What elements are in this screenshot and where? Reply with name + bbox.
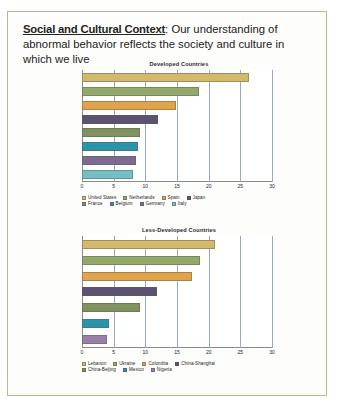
legend-label: China-Beijing — [88, 367, 116, 372]
x-tick-label: 30 — [269, 183, 275, 189]
legend-label: Japan — [193, 195, 206, 200]
bar-row — [82, 287, 272, 296]
legend-item[interactable]: Germany — [140, 201, 165, 206]
x-tick-label: 5 — [112, 183, 115, 189]
header-lead-term: Social and Cultural Context — [23, 23, 165, 35]
legend-swatch-icon — [151, 368, 155, 372]
x-tick-label: 5 — [112, 349, 115, 355]
chart-less-developed-countries: Less-Developed Countries 051015202530 Le… — [70, 226, 288, 373]
legend-row: FranceBelgiumGermanyItaly — [82, 201, 278, 206]
legend-item[interactable]: Mexico — [123, 367, 144, 372]
x-tick-label: 0 — [81, 183, 84, 189]
bar-row — [82, 142, 272, 151]
legend-swatch-icon — [187, 196, 191, 200]
bar-row — [82, 156, 272, 165]
bar-row — [82, 335, 272, 344]
bar — [82, 87, 199, 96]
legend-row: LebanonUkraineColombiaChina-Shanghai — [82, 361, 278, 366]
legend-label: France — [88, 201, 103, 206]
legend-item[interactable]: Italy — [172, 201, 187, 206]
legend-swatch-icon — [82, 362, 86, 366]
legend-item[interactable]: France — [82, 201, 103, 206]
bar — [82, 272, 192, 281]
legend-item[interactable]: United States — [82, 195, 116, 200]
chart-title: Less-Developed Countries — [70, 226, 288, 234]
plot-wrap — [82, 236, 272, 348]
chart-developed-countries: Developed Countries 051015202530 United … — [70, 60, 288, 207]
legend-row: United StatesNetherlandsSpainJapan — [82, 195, 278, 200]
legend-item[interactable]: Nigeria — [151, 367, 172, 372]
legend-label: Germany — [146, 201, 165, 206]
bar-row — [82, 101, 272, 110]
x-axis: 051015202530 — [82, 182, 272, 192]
legend-item[interactable]: Lebanon — [82, 361, 106, 366]
bar-row — [82, 73, 272, 82]
legend-swatch-icon — [140, 202, 144, 206]
x-tick-label: 25 — [238, 349, 244, 355]
bar — [82, 142, 138, 151]
legend-swatch-icon — [175, 362, 179, 366]
legend-swatch-icon — [123, 196, 127, 200]
bar-series — [82, 70, 272, 182]
legend-label: Ukraine — [119, 361, 135, 366]
bar — [82, 319, 109, 328]
legend-swatch-icon — [142, 362, 146, 366]
legend-swatch-icon — [172, 202, 176, 206]
x-tick-label: 15 — [174, 183, 180, 189]
x-tick-label: 10 — [143, 183, 149, 189]
legend-swatch-icon — [82, 196, 86, 200]
legend-label: Lebanon — [88, 361, 106, 366]
legend-item[interactable]: Colombia — [142, 361, 168, 366]
chart-legend: LebanonUkraineColombiaChina-ShanghaiChin… — [70, 361, 288, 372]
legend-label: Italy — [178, 201, 187, 206]
x-tick-label: 20 — [206, 349, 212, 355]
x-tick-label: 30 — [269, 349, 275, 355]
gridline — [272, 236, 273, 348]
plot-wrap — [82, 70, 272, 182]
bar — [82, 240, 215, 249]
x-tick-label: 25 — [238, 183, 244, 189]
legend-label: Mexico — [129, 367, 144, 372]
legend-row: China-BeijingMexicoNigeria — [82, 367, 278, 372]
bar-row — [82, 303, 272, 312]
x-tick-label: 0 — [81, 349, 84, 355]
legend-swatch-icon — [162, 196, 166, 200]
legend-item[interactable]: Netherlands — [123, 195, 154, 200]
bar — [82, 170, 133, 179]
gridline — [272, 70, 273, 182]
bar — [82, 101, 176, 110]
bar-row — [82, 128, 272, 137]
legend-item[interactable]: Spain — [162, 195, 180, 200]
bar — [82, 256, 200, 265]
legend-item[interactable]: Belgium — [110, 201, 133, 206]
bar — [82, 115, 158, 124]
legend-swatch-icon — [82, 202, 86, 206]
legend-swatch-icon — [113, 362, 117, 366]
chart-legend: United StatesNetherlandsSpainJapanFrance… — [70, 195, 288, 206]
legend-item[interactable]: China-Shanghai — [175, 361, 215, 366]
bar-row — [82, 272, 272, 281]
legend-swatch-icon — [110, 202, 114, 206]
legend-item[interactable]: Ukraine — [113, 361, 135, 366]
legend-label: Netherlands — [129, 195, 154, 200]
bar-row — [82, 319, 272, 328]
legend-label: Belgium — [116, 201, 133, 206]
legend-item[interactable]: Japan — [187, 195, 206, 200]
slide-frame: Social and Cultural Context: Our underst… — [7, 11, 327, 396]
bar — [82, 128, 140, 137]
bar — [82, 287, 157, 296]
bar-row — [82, 170, 272, 179]
legend-item[interactable]: China-Beijing — [82, 367, 116, 372]
bar-row — [82, 240, 272, 249]
legend-swatch-icon — [123, 368, 127, 372]
bar — [82, 335, 107, 344]
bar — [82, 156, 136, 165]
bar-series — [82, 236, 272, 348]
legend-label: Colombia — [148, 361, 168, 366]
legend-label: China-Shanghai — [181, 361, 215, 366]
x-tick-label: 20 — [206, 183, 212, 189]
legend-label: Spain — [168, 195, 180, 200]
legend-label: United States — [88, 195, 116, 200]
bar-row — [82, 87, 272, 96]
legend-label: Nigeria — [157, 367, 172, 372]
